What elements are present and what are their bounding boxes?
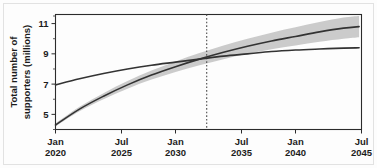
x-tick-label-year-2045: 2045 [351, 147, 373, 158]
x-tick-label-month-2030: Jan [167, 136, 184, 147]
y-tick-label-11: 11 [38, 18, 49, 29]
line-chart: 57911 Jan2020Jul2025Jan2030Jul2035Jan204… [0, 0, 377, 168]
figure-container: 57911 Jan2020Jul2025Jan2030Jul2035Jan204… [0, 0, 377, 168]
x-axis-tick-labels: Jan2020Jul2025Jan2030Jul2035Jan2040Jul20… [45, 136, 373, 158]
y-axis-title: Total number of supporters (millions) [8, 25, 32, 119]
x-axis-ticks [56, 130, 362, 134]
y-tick-label-5: 5 [43, 109, 49, 120]
y-tick-label-7: 7 [43, 79, 48, 90]
x-tick-label-month-2045: Jul [355, 136, 369, 147]
x-tick-label-year-2040: 2040 [285, 147, 306, 158]
x-tick-label-year-2030: 2030 [165, 147, 186, 158]
x-tick-label-year-2025: 2025 [111, 147, 133, 158]
x-tick-label-month-2025: Jul [115, 136, 129, 147]
y-axis-title-line-2: supporters (millions) [21, 25, 32, 119]
x-tick-label-month-2040: Jan [287, 136, 304, 147]
x-tick-label-year-2035: 2035 [231, 147, 253, 158]
x-tick-label-month-2020: Jan [47, 136, 64, 147]
x-tick-label-year-2020: 2020 [45, 147, 66, 158]
y-tick-label-9: 9 [43, 48, 48, 59]
y-axis-title-line-1: Total number of [8, 36, 19, 108]
x-tick-label-month-2035: Jul [235, 136, 249, 147]
y-axis-tick-labels: 57911 [38, 18, 49, 120]
